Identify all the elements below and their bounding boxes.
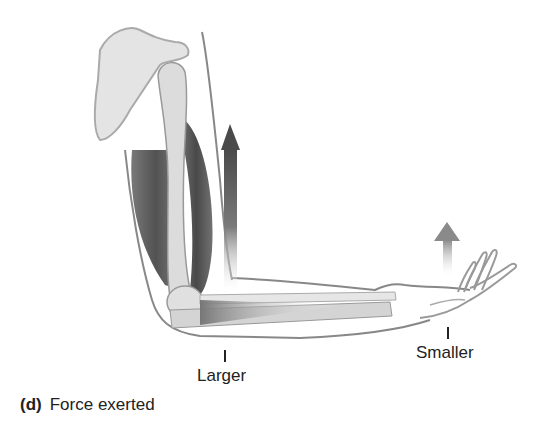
smaller-force-arrow-icon bbox=[434, 222, 460, 275]
hand bbox=[420, 250, 516, 318]
arm-illustration bbox=[0, 0, 552, 444]
larger-label: Larger bbox=[197, 366, 246, 386]
caption-text: Force exerted bbox=[50, 395, 155, 414]
figure-caption: (d)Force exerted bbox=[20, 395, 155, 415]
forearm-outline-top bbox=[232, 278, 470, 290]
caption-letter: (d) bbox=[20, 395, 42, 414]
anatomy-figure: Larger Smaller (d)Force exerted bbox=[0, 0, 552, 444]
smaller-label: Smaller bbox=[416, 343, 474, 363]
larger-force-arrow-icon bbox=[221, 124, 240, 290]
